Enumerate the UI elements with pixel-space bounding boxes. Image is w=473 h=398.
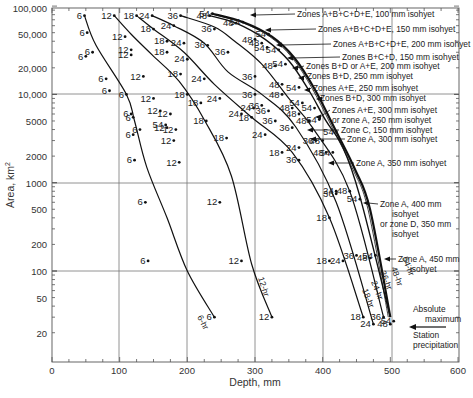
- data-point: [266, 46, 269, 49]
- data-point-label: 18: [188, 97, 199, 108]
- annotation-label: Zones A+B+C+D+E, 200 mm isohyet: [333, 39, 471, 49]
- annotation-leader: [292, 57, 340, 58]
- data-point-label: 18: [269, 147, 280, 158]
- data-point: [328, 216, 331, 219]
- data-point: [254, 93, 257, 96]
- data-point-label: 54: [289, 97, 300, 108]
- annotation-label: Zones A+B+C+D+E, 150 mm isohyet: [318, 24, 456, 34]
- data-point: [142, 75, 145, 78]
- data-point-label: 18: [124, 10, 135, 21]
- data-point: [147, 260, 150, 263]
- data-point: [174, 128, 177, 131]
- data-point: [298, 146, 301, 149]
- data-point: [83, 14, 86, 17]
- y-tick-label: 5000: [26, 116, 47, 127]
- data-point: [183, 42, 186, 45]
- data-point-label: 6: [138, 196, 143, 207]
- data-point-label: 54: [266, 44, 277, 55]
- data-point-label: 54: [153, 119, 164, 130]
- data-point-label: 54: [301, 102, 312, 113]
- annotation-label: Zone A, 300 mm isohyet: [347, 134, 438, 144]
- y-tick-label: 50,000: [18, 29, 47, 40]
- data-point-label: 54: [286, 82, 297, 93]
- data-point-label: 24: [286, 142, 297, 153]
- data-point-label: 36: [279, 122, 290, 133]
- data-point: [284, 63, 287, 66]
- data-point-label: 24: [207, 93, 218, 104]
- data-point-label: 36: [242, 89, 253, 100]
- data-point: [179, 73, 182, 76]
- data-point-label: 18: [193, 115, 204, 126]
- data-point-label: 12: [259, 311, 270, 322]
- arrowhead-icon: [250, 13, 256, 18]
- data-point: [211, 12, 214, 15]
- data-point: [130, 54, 133, 57]
- data-point-label: 54: [272, 58, 283, 69]
- data-point-label: 6: [78, 51, 83, 62]
- depth-area-chart: 0100200300400500600 100,00050,00020,0001…: [0, 0, 473, 398]
- arrowhead-icon: [328, 161, 334, 166]
- annotation-label: Zones B+D or A+E, 200 mm isohyet: [306, 61, 440, 71]
- data-point: [133, 159, 136, 162]
- data-point: [213, 316, 216, 319]
- arrowhead-icon: [384, 257, 390, 262]
- data-point-label: 54: [347, 193, 358, 204]
- data-point-label: 6: [119, 89, 124, 100]
- data-point-label: 6: [127, 154, 132, 165]
- data-point-label: 6: [125, 129, 130, 140]
- data-point: [358, 198, 361, 201]
- data-point-label: 24: [171, 37, 182, 48]
- data-point-label: 18: [316, 212, 327, 223]
- data-point: [105, 77, 108, 80]
- x-tick-label: 100: [111, 365, 127, 376]
- data-point: [267, 33, 270, 36]
- data-point: [91, 51, 94, 54]
- svg-text:Area, km2: Area, km2: [4, 162, 16, 208]
- data-point: [124, 35, 127, 38]
- data-point: [321, 139, 324, 142]
- data-point-label: 12: [147, 105, 158, 116]
- data-point: [206, 44, 209, 47]
- data-point-label: 18: [350, 311, 361, 322]
- data-point: [130, 48, 133, 51]
- y-tick-label: 1000: [26, 178, 47, 189]
- data-point: [84, 55, 87, 58]
- data-point: [348, 190, 351, 193]
- data-point: [166, 40, 169, 43]
- data-point-label: 24: [191, 73, 202, 84]
- annotation-label: Absolutemaximum: [413, 304, 461, 324]
- y-axis-title-sup: 2: [4, 162, 11, 166]
- y-axis-title: Area, km2: [4, 162, 16, 208]
- data-point: [281, 83, 284, 86]
- data-point: [271, 316, 274, 319]
- x-tick-label: 200: [179, 365, 195, 376]
- annotation-label: Zones B+D, 300 mm isohyet: [320, 93, 427, 103]
- data-point: [225, 137, 228, 140]
- data-point-label: 36: [323, 188, 334, 199]
- data-point-label: 48: [269, 89, 280, 100]
- y-tick-label: 500: [31, 204, 47, 215]
- data-point-label: 54: [255, 28, 266, 39]
- data-point-label: 48: [286, 108, 297, 119]
- data-point: [291, 126, 294, 129]
- annotation-leader: [255, 14, 295, 15]
- data-point: [186, 93, 189, 96]
- annotation-label: Zones A+E, 300 mm isohyetor zone A, 250 …: [332, 105, 438, 125]
- data-point: [186, 58, 189, 61]
- data-point: [179, 14, 182, 17]
- data-point-label: 24: [228, 108, 239, 119]
- data-point: [227, 51, 230, 54]
- data-point: [298, 86, 301, 89]
- annotation-label: Zones A+E, 250 mm isohyet: [313, 83, 419, 93]
- data-point-label: 24: [360, 318, 371, 329]
- y-tick-label: 20,000: [18, 63, 47, 74]
- data-point-label: 48: [262, 60, 273, 71]
- annotation-label: Zones B+D, 250 mm isohyet: [307, 71, 414, 81]
- annotation-label: Stationprecipitation: [413, 330, 459, 350]
- data-point: [132, 133, 135, 136]
- annotation-leader: [281, 44, 331, 45]
- data-point-label: 12: [118, 49, 129, 60]
- data-point-label: 6: [140, 255, 145, 266]
- data-point: [254, 75, 257, 78]
- data-point: [132, 116, 135, 119]
